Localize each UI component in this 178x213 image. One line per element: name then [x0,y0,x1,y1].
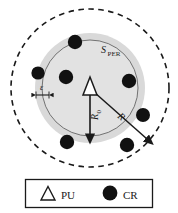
cr-node [122,74,136,88]
s-per-label-main: S [101,44,106,55]
cr-node [60,135,74,149]
diagram-canvas: ε S PER R 0 R [0,0,178,213]
legend-label-cr: CR [123,189,138,201]
cr-node [136,108,150,122]
legend: PU CR [26,180,153,208]
s-per-label-subscript: PER [108,50,121,58]
cr-node [31,66,44,79]
r0-label-main: R [89,114,100,121]
r0-label-subscript: 0 [95,110,103,114]
filled-circle-icon [103,186,118,201]
coverage-diagram-figure: ε S PER R 0 R [0,0,178,213]
cr-node [68,35,82,49]
cr-node [120,138,134,152]
cr-node [59,70,73,84]
legend-label-pu: PU [61,189,75,201]
